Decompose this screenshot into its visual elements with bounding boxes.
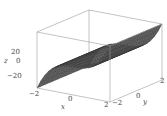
x-tick-minus-2: −2 bbox=[29, 91, 39, 98]
x-tick-2: 2 bbox=[104, 102, 108, 109]
y-tick-2: 2 bbox=[160, 78, 164, 85]
y-tick-minus-2: −2 bbox=[112, 100, 122, 107]
z-tick-20: 20 bbox=[11, 49, 20, 56]
z-tick-0: 0 bbox=[16, 58, 20, 65]
y-tick-0: 0 bbox=[136, 93, 140, 100]
surface-mesh bbox=[37, 24, 162, 88]
x-axis-label: x bbox=[61, 104, 65, 111]
z-tick-minus-20: −20 bbox=[7, 73, 22, 80]
surface-plot bbox=[0, 0, 167, 116]
z-axis-label: z bbox=[4, 58, 8, 65]
y-axis-label: y bbox=[143, 99, 147, 106]
x-tick-0: 0 bbox=[68, 96, 72, 103]
